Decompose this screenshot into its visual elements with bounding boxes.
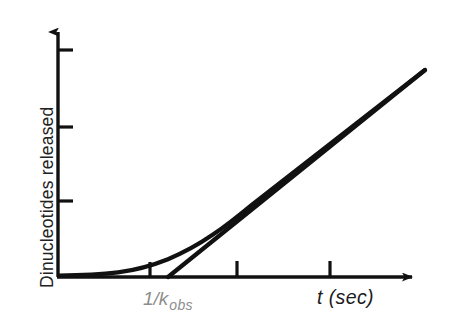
x-axis-title: t (sec) — [317, 288, 374, 308]
lag-time-label-main: 1/k — [143, 288, 168, 309]
x-axis-ticks — [237, 261, 330, 277]
y-axis-ticks — [58, 50, 73, 201]
tangent-extrapolation-line — [168, 70, 425, 277]
axis-lines — [57, 32, 412, 277]
kinetics-figure: Dinucleotides released 1/kobs t (sec) — [0, 0, 458, 335]
progress-curve — [59, 70, 425, 276]
plot-canvas — [0, 0, 458, 335]
lag-time-label: 1/kobs — [143, 289, 192, 308]
y-axis-title: Dinucleotides released — [34, 18, 60, 288]
lag-time-label-subscript: obs — [169, 297, 192, 313]
